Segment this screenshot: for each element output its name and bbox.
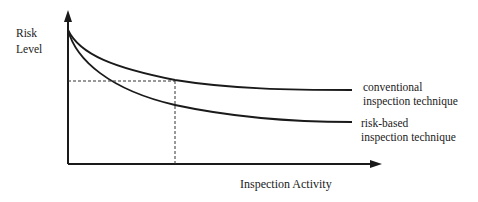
conventional-label-line2: inspection technique [363,94,458,108]
y-axis-label-line1: Risk [16,26,37,40]
y-axis-label-line2: Level [16,42,42,56]
x-axis-arrow-icon [370,160,382,168]
conventional-label-line1: conventional [363,80,422,94]
x-axis-label: Inspection Activity [240,177,332,191]
risk-based-label-line2: inspection technique [361,130,456,144]
risk-based-label-line1: risk-based [361,116,408,130]
y-axis-arrow-icon [64,10,72,22]
risk-based-curve [68,30,352,122]
